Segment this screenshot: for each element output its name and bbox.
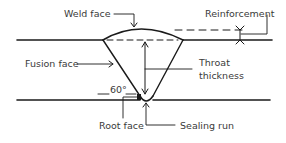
sealing-run-bead: [140, 96, 153, 101]
reinforcement-label: Reinforcement: [205, 9, 274, 19]
weld-face-arc: [103, 29, 183, 40]
throat-label-line2: thickness: [199, 71, 244, 81]
reinforcement-arrow-top: [236, 26, 244, 30]
fusion-face-label: Fusion face: [25, 59, 79, 69]
root-face-block: [137, 94, 141, 100]
angle-label: 60°: [110, 85, 127, 95]
weld-face-label: Weld face: [64, 9, 111, 19]
fusion-face-right: [153, 40, 183, 96]
sealing-run-leader: [146, 103, 175, 125]
sealing-run-label: Sealing run: [180, 121, 234, 131]
weld-face-leader: [114, 14, 134, 26]
root-face-label: Root face: [99, 121, 144, 131]
throat-label-line1: Throat: [199, 58, 230, 68]
